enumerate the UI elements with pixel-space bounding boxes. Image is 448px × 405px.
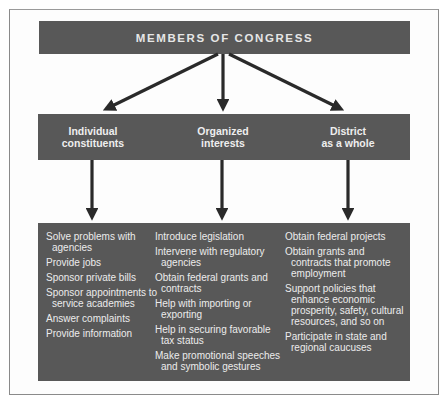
list-item: Introduce legislation: [155, 231, 285, 242]
label-line: Individual: [38, 125, 148, 137]
list-item: Help with importing or exporting: [155, 298, 285, 320]
organized-activities-list: Introduce legislation Intervene with reg…: [155, 231, 285, 376]
list-item: Make promotional speeches and symbolic g…: [155, 350, 285, 372]
category-district-label: District as a whole: [293, 125, 403, 149]
list-item: Sponsor private bills: [46, 272, 161, 283]
label-line: constituents: [38, 137, 148, 149]
category-individual-label: Individual constituents: [38, 125, 148, 149]
list-item: Solve problems with agencies: [46, 231, 161, 253]
individual-activities-list: Solve problems with agencies Provide job…: [46, 231, 161, 343]
list-item: Sponsor appointments to service academie…: [46, 287, 161, 309]
list-item: Help in securing favorable tax status: [155, 324, 285, 346]
label-line: interests: [168, 137, 278, 149]
label-line: Organized: [168, 125, 278, 137]
category-organized-label: Organized interests: [168, 125, 278, 149]
label-line: as a whole: [293, 137, 403, 149]
diagram-title: MEMBERS OF CONGRESS: [136, 32, 313, 44]
list-item: Provide jobs: [46, 257, 161, 268]
list-item: Intervene with regulatory agencies: [155, 246, 285, 268]
constituency-box: Individual constituents Organized intere…: [38, 114, 410, 160]
list-item: Obtain grants and contracts that promote…: [285, 246, 407, 279]
list-item: Obtain federal grants and contracts: [155, 272, 285, 294]
list-item: Participate in state and regional caucus…: [285, 331, 407, 353]
list-item: Obtain federal projects: [285, 231, 407, 242]
list-item: Answer complaints: [46, 313, 161, 324]
district-activities-list: Obtain federal projects Obtain grants an…: [285, 231, 407, 357]
label-line: District: [293, 125, 403, 137]
activities-box: Solve problems with agencies Provide job…: [38, 223, 410, 381]
list-item: Provide information: [46, 328, 161, 339]
list-item: Support policies that enhance economic p…: [285, 283, 407, 327]
congress-header-box: MEMBERS OF CONGRESS: [39, 21, 410, 54]
